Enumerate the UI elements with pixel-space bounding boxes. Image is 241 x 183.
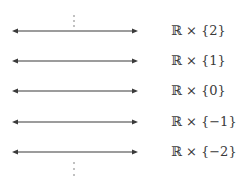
line-row-1: ℝ × {1} [0, 51, 241, 71]
line-row-neg1: ℝ × {−1} [0, 112, 241, 132]
line-label: ℝ × {−1} [171, 112, 237, 132]
real-lines-diagram: ℝ × {2} ℝ × {1} ℝ × {0} ℝ × {−1} [0, 0, 241, 183]
double-arrow-line-icon [12, 55, 138, 67]
line-row-2: ℝ × {2} [0, 21, 241, 41]
line-label: ℝ × {2} [171, 21, 226, 41]
double-arrow-line-icon [12, 85, 138, 97]
line-row-neg2: ℝ × {−2} [0, 142, 241, 162]
line-label: ℝ × {−2} [171, 142, 237, 162]
double-arrow-line-icon [12, 146, 138, 158]
line-label: ℝ × {0} [171, 81, 226, 101]
line-label: ℝ × {1} [171, 51, 226, 71]
double-arrow-line-icon [12, 25, 138, 37]
line-row-0: ℝ × {0} [0, 81, 241, 101]
double-arrow-line-icon [12, 116, 138, 128]
bottom-continuation-dots-icon [70, 161, 78, 179]
